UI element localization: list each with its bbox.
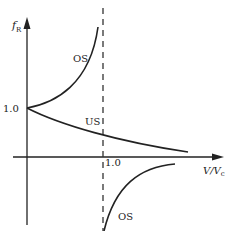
y-tick-label: 1.0 bbox=[3, 103, 19, 114]
os-upper-curve bbox=[27, 27, 98, 108]
x-axis-arrow-icon bbox=[212, 154, 224, 161]
y-axis-label: fR bbox=[11, 19, 22, 34]
us-curve bbox=[27, 108, 188, 152]
x-axis-label: V/Vc bbox=[203, 165, 225, 178]
x-tick-label: 1.0 bbox=[105, 157, 121, 168]
us-label: US bbox=[85, 116, 100, 127]
steering-response-diagram: fR 1.0 1.0 V/Vc OS US OS bbox=[0, 0, 236, 231]
os-lower-label: OS bbox=[118, 211, 133, 222]
os-lower-curve bbox=[104, 164, 175, 231]
y-axis-arrow-icon bbox=[24, 17, 31, 29]
os-upper-label: OS bbox=[73, 53, 88, 64]
